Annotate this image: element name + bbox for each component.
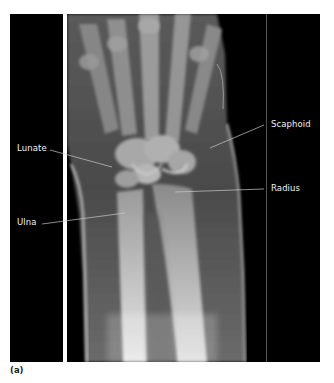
xray-figure: Lunate Scaphoid Radius Ulna (a) bbox=[0, 0, 334, 383]
label-lunate: Lunate bbox=[17, 143, 47, 153]
figure-caption: (a) bbox=[10, 365, 24, 375]
panel-divider-line bbox=[266, 14, 267, 362]
label-ulna: Ulna bbox=[17, 217, 37, 227]
label-scaphoid: Scaphoid bbox=[271, 119, 311, 129]
left-black-panel bbox=[10, 14, 63, 362]
wrist-xray-image bbox=[67, 14, 267, 362]
label-radius: Radius bbox=[271, 183, 300, 193]
